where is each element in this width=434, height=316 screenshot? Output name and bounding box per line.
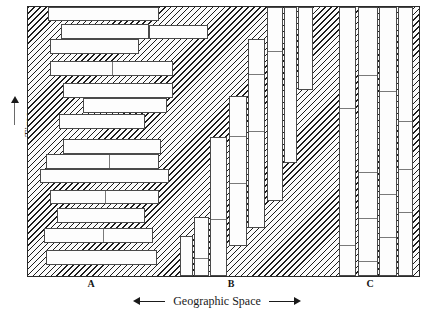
block-c-2-divider-4 (359, 261, 377, 262)
block-a-1 (48, 7, 159, 21)
block-b-3 (210, 137, 228, 276)
block-b-7 (284, 7, 297, 163)
block-a-12-divider-1 (105, 191, 106, 204)
block-a-10 (46, 154, 159, 169)
block-a-10-divider-1 (109, 155, 110, 168)
block-b-5 (248, 39, 266, 227)
block-b-2 (194, 217, 209, 276)
block-c-3-divider-1 (380, 91, 396, 92)
figure-canvas: Time A B C Geographic Space (0, 0, 434, 316)
block-a-9 (63, 139, 161, 154)
block-a-8 (59, 114, 145, 129)
block-a-5 (50, 61, 173, 76)
block-c-3 (379, 7, 397, 276)
right-arrow-icon (267, 297, 301, 306)
block-b-8 (298, 7, 314, 90)
x-tick-label-b: B (219, 278, 243, 289)
block-b-6-divider-1 (268, 51, 282, 52)
block-a-13 (57, 208, 145, 223)
time-axis-line (14, 103, 15, 125)
block-c-2-divider-1 (359, 75, 377, 76)
block-b-4-divider-2 (230, 183, 246, 184)
block-b-4-divider-1 (230, 136, 246, 137)
block-c-4 (398, 7, 414, 276)
x-axis-caption-text: Geographic Space (167, 294, 267, 309)
x-tick-label-c: C (358, 278, 382, 289)
block-b-3-divider-1 (211, 219, 227, 220)
block-b-5-divider-1 (249, 74, 265, 75)
block-a-14-divider-1 (103, 229, 104, 242)
block-a-6 (63, 83, 172, 98)
block-b-1 (180, 236, 193, 276)
block-c-4-divider-2 (399, 169, 413, 170)
block-a-11 (40, 169, 169, 183)
block-c-4-divider-3 (399, 212, 413, 213)
block-c-2 (358, 7, 378, 276)
block-a-12 (50, 190, 159, 205)
x-tick-label-a: A (79, 278, 103, 289)
block-c-2-divider-2 (359, 172, 377, 173)
block-b-6 (267, 7, 283, 201)
block-c-1-divider-1 (340, 108, 356, 109)
block-a-15 (46, 250, 157, 265)
block-c-3-divider-3 (380, 237, 396, 238)
block-c-4-divider-1 (399, 121, 413, 122)
block-b-2-divider-1 (195, 258, 208, 259)
time-axis-arrow-icon (11, 96, 19, 103)
block-a-3 (149, 25, 208, 38)
left-arrow-icon (133, 297, 167, 306)
block-c-3-divider-2 (380, 194, 396, 195)
block-a-2 (61, 24, 149, 39)
block-c-1 (339, 7, 357, 276)
block-a-5-divider-1 (112, 62, 113, 75)
block-a-4 (50, 39, 140, 54)
plot-area (27, 6, 420, 277)
block-c-2-divider-3 (359, 218, 377, 219)
block-b-4 (229, 96, 247, 247)
block-a-14 (44, 228, 153, 243)
block-a-7 (83, 98, 167, 113)
block-b-5-divider-2 (249, 131, 265, 132)
x-axis-caption: Geographic Space (0, 293, 434, 309)
block-c-1-divider-2 (340, 245, 356, 246)
